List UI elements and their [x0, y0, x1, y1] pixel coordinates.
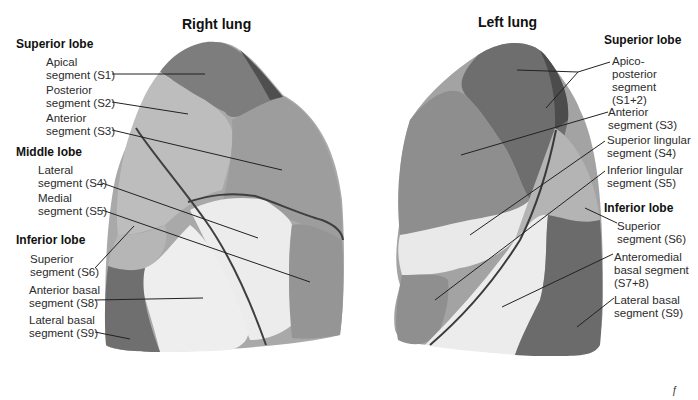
label-left-lateral-basal-s9: Lateral basal segment (S9) — [614, 294, 683, 320]
label-left-apicoposterior-s1-2: Apico- posterior segment (S1+2) — [612, 55, 657, 107]
label-left-superior-lingular-s4: Superior lingular segment (S4) — [607, 134, 691, 160]
label-right-lateral-s4: Lateral segment (S4) — [38, 164, 107, 190]
artist-signature: ƒ — [672, 385, 678, 396]
label-left-superior-s6: Superior segment (S6) — [617, 220, 686, 246]
label-right-superior-s6: Superior segment (S6) — [30, 253, 99, 279]
right-middle-lobe-heading: Middle lobe — [16, 145, 82, 159]
label-right-anterior-s3: Anterior segment (S3) — [46, 112, 115, 138]
left-lung-title: Left lung — [478, 14, 537, 30]
label-right-lateral-basal-s9: Lateral basal segment (S9) — [29, 314, 98, 340]
label-left-anteromedial-basal-s7-8: Anteromedial basal segment (S7+8) — [614, 251, 689, 290]
right-inferior-lobe-heading: Inferior lobe — [16, 233, 85, 247]
label-right-medial-s5: Medial segment (S5) — [38, 192, 107, 218]
left-superior-lobe-heading: Superior lobe — [604, 33, 681, 47]
label-right-anterior-basal-s8: Anterior basal segment (S8) — [29, 284, 100, 310]
right-superior-lobe-heading: Superior lobe — [16, 37, 93, 51]
left-inferior-lobe-heading: Inferior lobe — [604, 201, 673, 215]
left-lung — [394, 43, 603, 356]
label-left-anterior-s3: Anterior segment (S3) — [608, 106, 677, 132]
label-left-inferior-lingular-s5: Inferior lingular segment (S5) — [607, 164, 683, 190]
right-medial-s5 — [289, 224, 343, 339]
label-right-posterior-s2: Posterior segment (S2) — [46, 84, 115, 110]
right-lung-title: Right lung — [182, 16, 251, 32]
leader-left-s1-2c — [578, 62, 610, 72]
label-right-apical-s1: Apical segment (S1) — [46, 56, 115, 82]
